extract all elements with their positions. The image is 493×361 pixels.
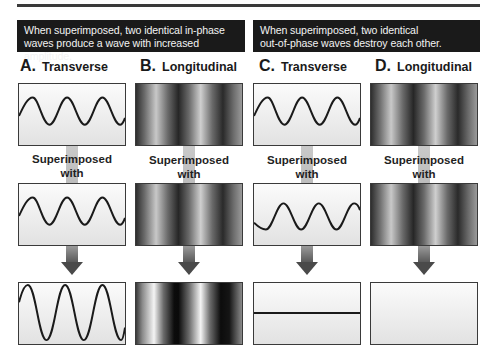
superimposed-label-d: Superimposed with <box>370 153 478 181</box>
superimposed-text: Superimposed <box>253 153 361 167</box>
in-phase-caption-line1: When superimposed, two identical in-phas… <box>24 24 245 37</box>
result-d-cancelled <box>370 282 478 345</box>
with-text: with <box>18 166 126 180</box>
transverse-wave-inverted-icon <box>254 184 360 245</box>
heading-letter: D. <box>375 57 391 74</box>
heading-d: D.Longitudinal <box>375 57 472 75</box>
wave-c-2-inverted <box>253 183 361 246</box>
heading-letter: C. <box>259 57 275 74</box>
flat-line-icon <box>254 312 360 314</box>
out-of-phase-caption-line2: out-of-phase waves destroy each other. <box>260 37 480 50</box>
result-c-cancelled <box>253 282 361 345</box>
superimposed-text: Superimposed <box>370 153 478 167</box>
in-phase-caption: When superimposed, two identical in-phas… <box>17 20 245 52</box>
with-text: with <box>370 167 478 181</box>
down-arrow-icon <box>413 246 435 276</box>
longitudinal-b-1 <box>135 83 243 146</box>
transverse-wave-icon <box>19 184 125 245</box>
heading-name: Transverse <box>281 60 347 74</box>
heading-letter: B. <box>140 57 156 74</box>
down-arrow-icon <box>178 246 200 276</box>
out-of-phase-caption: When superimposed, two identical out-of-… <box>253 20 480 52</box>
transverse-wave-icon <box>254 84 360 145</box>
top-rule <box>17 4 480 7</box>
heading-a: A.Transverse <box>20 57 108 75</box>
longitudinal-d-1 <box>370 83 478 146</box>
down-arrow-icon <box>296 246 318 276</box>
with-text: with <box>253 167 361 181</box>
amplified-wave-icon <box>19 283 125 344</box>
out-of-phase-caption-line1: When superimposed, two identical <box>260 24 480 37</box>
superimposed-label-b: Superimposed with <box>135 153 243 181</box>
wave-a-1 <box>18 83 126 146</box>
heading-b: B.Longitudinal <box>140 57 237 75</box>
wave-c-1 <box>253 83 361 146</box>
heading-name: Longitudinal <box>162 60 237 74</box>
with-text: with <box>135 167 243 181</box>
heading-name: Transverse <box>42 60 108 74</box>
heading-name: Longitudinal <box>397 60 472 74</box>
superimposed-label-c: Superimposed with <box>253 153 361 181</box>
superimposed-label-a: Superimposed with <box>18 152 126 180</box>
down-arrow-icon <box>61 246 83 276</box>
longitudinal-b-2 <box>135 183 243 246</box>
result-a-increased-amplitude <box>18 282 126 345</box>
heading-letter: A. <box>20 57 36 74</box>
superimposed-text: Superimposed <box>18 152 126 166</box>
wave-a-2 <box>18 183 126 246</box>
superimposed-text: Superimposed <box>135 153 243 167</box>
transverse-wave-icon <box>19 84 125 145</box>
longitudinal-d-2-inverted <box>370 183 478 246</box>
result-b-increased-amplitude <box>135 282 243 345</box>
heading-c: C.Transverse <box>259 57 347 75</box>
